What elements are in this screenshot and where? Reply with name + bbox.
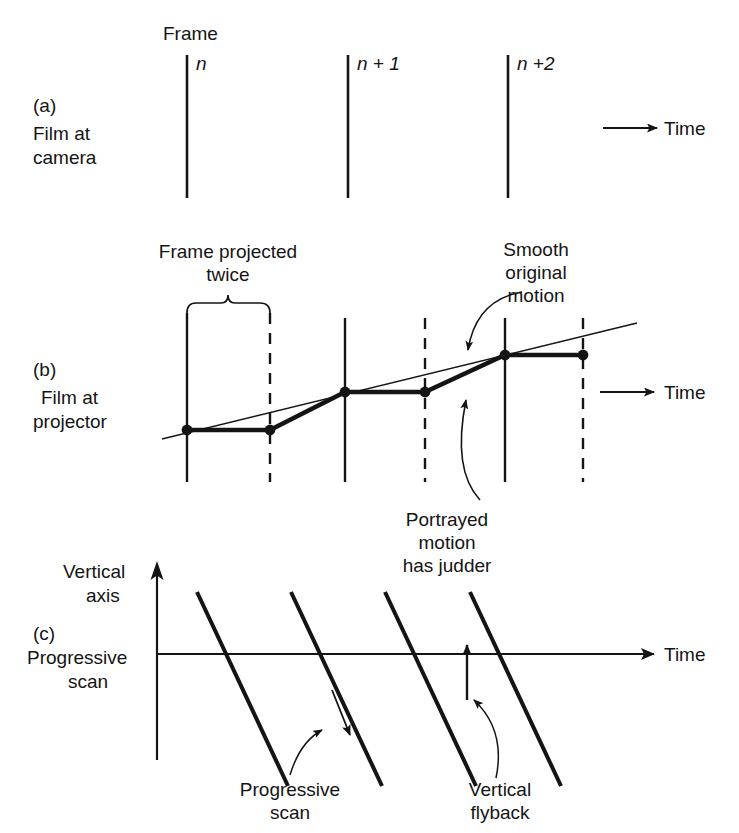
panel-a-caption-line1: Film at bbox=[33, 122, 90, 146]
scan-line-4 bbox=[470, 592, 561, 786]
frame-projected-twice-line2: twice bbox=[149, 263, 307, 286]
staircase-node bbox=[420, 387, 431, 398]
panel-b-tag: (b) bbox=[33, 358, 56, 382]
panel-c-graphics bbox=[151, 561, 655, 786]
frame-projected-twice-bracket bbox=[187, 295, 270, 313]
staircase-node bbox=[500, 350, 511, 361]
smooth-motion-line2: original bbox=[470, 261, 602, 284]
frame-heading: Frame bbox=[163, 22, 218, 45]
staircase-node bbox=[340, 387, 351, 398]
panel-a-tag: (a) bbox=[33, 94, 56, 118]
staircase-node bbox=[265, 425, 276, 436]
panel-b-graphics bbox=[162, 292, 654, 500]
panel-b-time-label: Time bbox=[664, 381, 706, 404]
panel-a-caption-line2: camera bbox=[33, 146, 96, 170]
frame-label-n-plus-2: n +2 bbox=[517, 52, 555, 75]
diagram-canvas bbox=[0, 0, 739, 833]
frame-projected-twice-line1: Frame projected bbox=[149, 240, 307, 263]
panel-c-caption-line1: Progressive bbox=[27, 646, 127, 670]
progressive-scan-leader bbox=[290, 730, 322, 775]
portrayed-motion-leader-arrow bbox=[461, 400, 480, 500]
panel-c-time-label: Time bbox=[664, 643, 706, 666]
progressive-scan-annotation-line1: Progressive bbox=[200, 778, 380, 801]
vertical-flyback-leader bbox=[474, 700, 498, 778]
frame-label-n: n bbox=[196, 52, 207, 75]
vertical-flyback-annotation-line2: flyback bbox=[430, 801, 570, 824]
panel-c-tag: (c) bbox=[33, 622, 55, 646]
vertical-axis-label-line2: axis bbox=[86, 584, 120, 607]
portrayed-motion-line3: has judder bbox=[374, 554, 520, 577]
portrayed-motion-line2: motion bbox=[374, 531, 520, 554]
panel-a-time-label: Time bbox=[664, 117, 706, 140]
smooth-original-motion-line bbox=[162, 323, 637, 439]
panel-c-caption-line2: scan bbox=[68, 670, 108, 694]
panel-a-graphics bbox=[187, 55, 657, 198]
scan-line-1 bbox=[197, 592, 288, 786]
figure-root: Frame n n + 1 n +2 (a) Film at camera Ti… bbox=[0, 0, 739, 833]
smooth-motion-line1: Smooth bbox=[470, 238, 602, 261]
scan-line-2 bbox=[291, 592, 382, 786]
progressive-scan-annotation-line2: scan bbox=[200, 801, 380, 824]
panel-b-caption-line1: Film at bbox=[41, 386, 98, 410]
staircase-node bbox=[182, 425, 193, 436]
smooth-motion-line3: motion bbox=[470, 284, 602, 307]
vertical-axis-label-line1: Vertical bbox=[63, 560, 125, 583]
frame-label-n-plus-1: n + 1 bbox=[357, 52, 400, 75]
portrayed-motion-line1: Portrayed bbox=[374, 508, 520, 531]
scan-line-3 bbox=[385, 592, 476, 786]
vertical-flyback-annotation-line1: Vertical bbox=[430, 778, 570, 801]
staircase-node bbox=[578, 350, 589, 361]
panel-b-caption-line2: projector bbox=[33, 410, 107, 434]
